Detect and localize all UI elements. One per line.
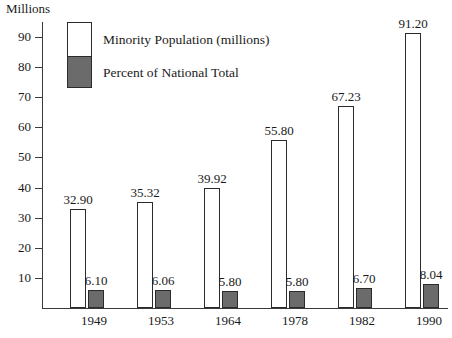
bar-minority-population-1953 (137, 202, 153, 308)
y-tick-mark (35, 218, 43, 219)
bar-percent-national-total-1990 (423, 284, 439, 308)
bar-minority-population-1949 (70, 209, 86, 308)
y-tick-label: 20 (3, 241, 31, 254)
bar-label-minority-population-1953: 35.32 (125, 186, 165, 199)
y-tick-40: 40 (0, 188, 43, 189)
bar-label-minority-population-1978: 55.80 (259, 124, 299, 137)
x-axis-label-1990: 1990 (402, 313, 452, 328)
bar-label-percent-national-total-1982: 6.70 (344, 272, 384, 285)
y-axis-line (42, 22, 43, 309)
y-tick-50: 50 (0, 157, 43, 158)
y-tick-60: 60 (0, 127, 43, 128)
legend-swatch-box (67, 22, 92, 88)
bar-label-minority-population-1949: 32.90 (58, 193, 98, 206)
bar-label-percent-national-total-1964: 5.80 (210, 275, 250, 288)
y-tick-80: 80 (0, 67, 43, 68)
legend-label-minority-population: Minority Population (millions) (103, 32, 270, 47)
y-tick-mark (35, 248, 43, 249)
y-tick-mark (35, 67, 43, 68)
legend-label-percent-national-total: Percent of National Total (103, 65, 239, 80)
bar-percent-national-total-1982 (356, 288, 372, 308)
y-tick-label: 50 (3, 150, 31, 163)
bar-percent-national-total-1949 (88, 290, 104, 308)
x-axis-label-1982: 1982 (335, 313, 389, 328)
y-tick-mark (35, 97, 43, 98)
x-axis-label-1953: 1953 (134, 313, 188, 328)
y-tick-90: 90 (0, 37, 43, 38)
chart-figure: Millions 102030405060708090 32.906.1035.… (0, 0, 452, 338)
y-tick-70: 70 (0, 97, 43, 98)
x-axis-label-1978: 1978 (268, 313, 322, 328)
bar-label-minority-population-1990: 91.20 (393, 17, 433, 30)
y-tick-mark (35, 127, 43, 128)
bar-minority-population-1964 (204, 188, 220, 308)
y-tick-label: 30 (3, 211, 31, 224)
x-axis-label-1964: 1964 (201, 313, 255, 328)
y-tick-label: 70 (3, 90, 31, 103)
y-tick-label: 90 (3, 30, 31, 43)
bar-label-percent-national-total-1978: 5.80 (277, 275, 317, 288)
bar-label-minority-population-1964: 39.92 (192, 172, 232, 185)
y-tick-label: 40 (3, 181, 31, 194)
y-tick-label: 80 (3, 60, 31, 73)
bar-minority-population-1990 (405, 33, 421, 308)
x-axis-line (42, 308, 448, 309)
legend-swatch-percent-national-total (68, 56, 91, 87)
y-axis-title: Millions (6, 1, 50, 16)
y-tick-label: 10 (3, 271, 31, 284)
bar-label-percent-national-total-1953: 6.06 (143, 274, 183, 287)
y-tick-label: 60 (3, 120, 31, 133)
bar-percent-national-total-1978 (289, 291, 305, 308)
y-tick-10: 10 (0, 278, 43, 279)
y-tick-mark (35, 278, 43, 279)
bar-label-percent-national-total-1990: 8.04 (411, 268, 451, 281)
bar-label-minority-population-1982: 67.23 (326, 90, 366, 103)
y-tick-20: 20 (0, 248, 43, 249)
bar-percent-national-total-1953 (155, 290, 171, 308)
legend-swatch-minority-population (68, 23, 91, 56)
x-axis-label-1949: 1949 (67, 313, 121, 328)
bar-label-percent-national-total-1949: 6.10 (76, 274, 116, 287)
y-tick-mark (35, 157, 43, 158)
y-tick-mark (35, 37, 43, 38)
y-tick-30: 30 (0, 218, 43, 219)
bar-percent-national-total-1964 (222, 291, 238, 308)
y-tick-mark (35, 188, 43, 189)
